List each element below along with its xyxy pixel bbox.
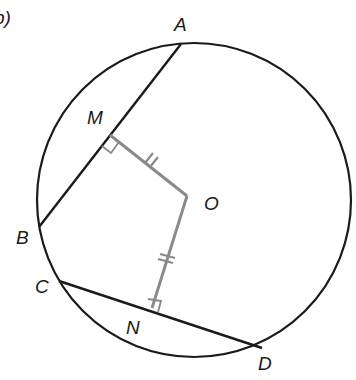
circle [37, 43, 351, 357]
segment-om [110, 135, 187, 196]
circle-diagram: b) A B C D M N O [0, 0, 356, 380]
partial-label: b) [0, 7, 11, 28]
label-b: B [16, 227, 29, 248]
chord-cd [59, 281, 262, 348]
label-c: C [35, 276, 49, 297]
segment-on [152, 196, 187, 308]
tick-mark-om-2 [150, 157, 158, 167]
tick-mark-om-1 [145, 153, 153, 163]
label-d: D [258, 353, 272, 374]
label-n: N [126, 317, 140, 338]
label-a: A [173, 14, 187, 35]
label-o: O [204, 193, 219, 214]
label-m: M [87, 107, 103, 128]
